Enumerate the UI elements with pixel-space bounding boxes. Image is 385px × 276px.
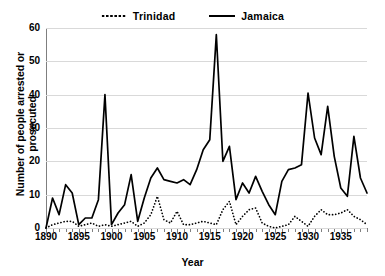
x-minor-tick-1928 xyxy=(295,229,296,232)
x-minor-tick-1893 xyxy=(66,229,67,232)
x-minor-tick-1909 xyxy=(171,229,172,232)
x-minor-tick-1908 xyxy=(164,229,165,232)
x-minor-tick-1934 xyxy=(334,229,335,232)
x-minor-tick-1913 xyxy=(197,229,198,232)
x-minor-tick-1907 xyxy=(157,229,158,232)
x-major-tick-1925 xyxy=(275,229,276,234)
gridline-y-0 xyxy=(46,228,367,229)
x-minor-tick-1901 xyxy=(118,229,119,232)
x-minor-tick-1904 xyxy=(138,229,139,232)
x-minor-tick-1911 xyxy=(184,229,185,232)
x-minor-tick-1906 xyxy=(151,229,152,232)
x-minor-tick-1903 xyxy=(131,229,132,232)
x-minor-tick-1892 xyxy=(59,229,60,232)
x-minor-tick-1929 xyxy=(302,229,303,232)
x-minor-tick-1894 xyxy=(72,229,73,232)
legend-item-jamaica: Jamaica xyxy=(209,10,284,22)
x-major-tick-1900 xyxy=(112,229,113,234)
x-major-tick-1915 xyxy=(210,229,211,234)
series-line-jamaica xyxy=(46,35,367,228)
legend-label-trinidad: Trinidad xyxy=(133,10,175,22)
x-major-tick-1905 xyxy=(144,229,145,234)
x-minor-tick-1937 xyxy=(354,229,355,232)
x-minor-tick-1912 xyxy=(190,229,191,232)
x-minor-tick-1902 xyxy=(125,229,126,232)
dotted-line-icon xyxy=(101,11,127,21)
x-axis-title: Year xyxy=(0,256,385,268)
x-minor-tick-1917 xyxy=(223,229,224,232)
x-minor-tick-1916 xyxy=(216,229,217,232)
x-minor-tick-1918 xyxy=(229,229,230,232)
x-minor-tick-1926 xyxy=(282,229,283,232)
x-minor-tick-1922 xyxy=(256,229,257,232)
x-minor-tick-1891 xyxy=(53,229,54,232)
x-minor-tick-1919 xyxy=(236,229,237,232)
x-minor-tick-1936 xyxy=(347,229,348,232)
x-minor-tick-1914 xyxy=(203,229,204,232)
x-minor-tick-1933 xyxy=(328,229,329,232)
x-minor-tick-1923 xyxy=(262,229,263,232)
chart-legend: Trinidad Jamaica xyxy=(0,6,385,26)
x-minor-tick-1921 xyxy=(249,229,250,232)
x-major-tick-1920 xyxy=(243,229,244,234)
x-major-tick-1910 xyxy=(177,229,178,234)
x-minor-tick-1899 xyxy=(105,229,106,232)
x-minor-tick-1897 xyxy=(92,229,93,232)
x-major-tick-1890 xyxy=(46,229,47,234)
legend-label-jamaica: Jamaica xyxy=(241,10,284,22)
line-chart: Trinidad Jamaica 0102030405060 189018951… xyxy=(0,0,385,276)
y-axis-title: Number of people arrested or prosecuted xyxy=(14,29,38,219)
x-minor-tick-1932 xyxy=(321,229,322,232)
x-major-tick-1935 xyxy=(341,229,342,234)
x-minor-tick-1939 xyxy=(367,229,368,232)
x-minor-tick-1931 xyxy=(315,229,316,232)
x-major-tick-1930 xyxy=(308,229,309,234)
plot-area xyxy=(46,28,367,228)
x-major-tick-1895 xyxy=(79,229,80,234)
legend-item-trinidad: Trinidad xyxy=(101,10,175,22)
x-minor-tick-1896 xyxy=(85,229,86,232)
x-minor-tick-1927 xyxy=(288,229,289,232)
x-minor-tick-1898 xyxy=(98,229,99,232)
x-minor-tick-1938 xyxy=(360,229,361,232)
x-minor-tick-1924 xyxy=(269,229,270,232)
series-layer xyxy=(46,28,367,228)
solid-line-icon xyxy=(209,11,235,21)
